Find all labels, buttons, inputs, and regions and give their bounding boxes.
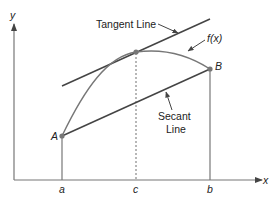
function-label: f(x) xyxy=(207,32,222,44)
point-b-marker xyxy=(207,66,212,71)
point-a-marker xyxy=(59,133,64,138)
point-a-label: A xyxy=(50,130,58,142)
tangent-line-label: Tangent Line xyxy=(96,18,156,30)
x-axis-label: x xyxy=(262,174,269,186)
secant-label-line2: Line xyxy=(166,123,186,135)
tangent-label-pointer xyxy=(158,24,178,33)
tick-a-label: a xyxy=(59,183,65,195)
fx-label-pointer xyxy=(188,40,205,51)
point-tangent-marker xyxy=(133,49,138,54)
tick-c-label: c xyxy=(133,183,139,195)
secant-label-line1: Secant xyxy=(158,110,191,122)
secant-label-pointer xyxy=(166,92,172,110)
y-axis-label: y xyxy=(9,9,16,21)
point-b-label: B xyxy=(215,60,222,72)
mean-value-theorem-diagram: Tangent Line f(x) Secant Line A B y x a … xyxy=(0,0,274,199)
tick-b-label: b xyxy=(207,183,213,195)
